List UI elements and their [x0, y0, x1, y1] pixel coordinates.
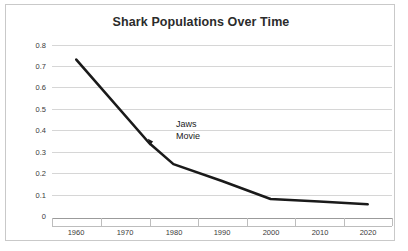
y-axis-labels: 0.8 0.7 0.6 0.5 0.4 0.3 0.2 0.1 0: [22, 45, 46, 222]
plot-area: [47, 45, 392, 222]
y-tick-label-0.8: 0.8: [24, 41, 46, 50]
y-tick-label-0.5: 0.5: [24, 105, 46, 114]
x-tick-mark-1965: [101, 218, 102, 226]
x-tick-label-2000: 2000: [251, 228, 291, 237]
x-tick-mark-end: [392, 218, 393, 226]
annotation-line-1: Jaws: [176, 119, 197, 129]
y-tick-label-0.3: 0.3: [24, 148, 46, 157]
gridline-0.5: [52, 109, 392, 110]
y-tick-label-0.1: 0.1: [24, 191, 46, 200]
x-tick-label-1990: 1990: [202, 228, 242, 237]
x-tick-mark-start: [52, 218, 53, 226]
gridline-0.4: [52, 130, 392, 131]
x-tick-label-2020: 2020: [348, 228, 388, 237]
chart-title: Shark Populations Over Time: [6, 15, 396, 29]
x-tick-mark-2005: [295, 218, 296, 226]
annotation-line-2: Movie: [176, 131, 200, 143]
gridline-0.2: [52, 173, 392, 174]
gridline-0.1: [52, 195, 392, 196]
x-tick-label-1970: 1970: [105, 228, 145, 237]
x-tick-mark-1975: [150, 218, 151, 226]
gridline-0.8: [52, 45, 392, 46]
y-tick-label-0: 0: [24, 212, 46, 221]
annotation-jaws-movie: Jaws Movie: [176, 119, 200, 142]
gridline-0.7: [52, 66, 392, 67]
x-tick-mark-2015: [344, 218, 345, 226]
y-tick-label-0.7: 0.7: [24, 62, 46, 71]
x-tick-label-1960: 1960: [56, 228, 96, 237]
x-tick-label-2010: 2010: [300, 228, 340, 237]
x-tick-label-1980: 1980: [154, 228, 194, 237]
x-tick-mark-1985: [198, 218, 199, 226]
y-tick-label-0.6: 0.6: [24, 83, 46, 92]
y-tick-label-0.4: 0.4: [24, 126, 46, 135]
y-tick-label-0.2: 0.2: [24, 169, 46, 178]
x-axis-line: [52, 218, 392, 219]
gridline-0.6: [52, 87, 392, 88]
x-tick-mark-1995: [247, 218, 248, 226]
x-axis-baseline: [52, 226, 392, 227]
gridline-0.3: [52, 152, 392, 153]
